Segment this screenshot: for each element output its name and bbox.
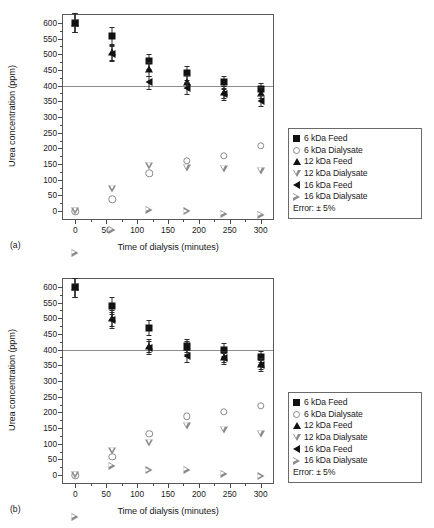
data-point-filled-triangle-left-icon	[72, 283, 79, 291]
y-axis-tick	[58, 475, 63, 476]
x-axis-tick	[199, 219, 200, 224]
data-point-filled-triangle-left-icon	[109, 50, 116, 58]
legend-item: 16 kDa Feed	[293, 179, 416, 191]
error-bar-cap	[221, 351, 226, 352]
error-bar-cap	[110, 297, 115, 298]
legend-item-label: 6 kDa Feed	[304, 397, 347, 408]
legend-item: 6 kDa Feed	[293, 397, 416, 409]
data-point-filled-triangle-left-icon	[220, 90, 227, 98]
y-axis-minor-tick	[60, 172, 63, 173]
y-axis-minor-tick	[60, 31, 63, 32]
error-bar-cap	[221, 76, 226, 77]
error-bar-cap	[110, 61, 115, 62]
y-axis-tick-label: 550	[43, 35, 57, 43]
legend-item-label: 12 kDa Feed	[304, 156, 352, 167]
legend-item: 12 kDa Dialysate	[293, 432, 416, 444]
error-bar-cap	[184, 66, 189, 67]
x-axis-tick	[261, 219, 262, 224]
error-bar-cap	[110, 310, 115, 311]
y-axis-minor-tick	[60, 78, 63, 79]
data-point-open-circle-icon	[257, 142, 264, 149]
y-axis-tick	[58, 350, 63, 351]
x-axis-tick-label: 250	[223, 226, 237, 234]
error-bar-cap	[110, 46, 115, 47]
y-axis-minor-tick	[60, 295, 63, 296]
error-bar-cap	[184, 94, 189, 95]
error-bar-cap	[221, 88, 226, 89]
y-axis-minor-tick	[60, 203, 63, 204]
legend-item-label: 6 kDa Dialysate	[304, 145, 363, 156]
data-point-filled-triangle-left-icon	[146, 344, 153, 352]
y-axis-tick	[58, 303, 63, 304]
open-circle-icon	[293, 411, 304, 418]
x-axis-tick	[75, 483, 76, 488]
x-axis-tick	[230, 483, 231, 488]
y-axis-minor-tick	[60, 93, 63, 94]
data-point-open-triangle-down-icon	[145, 163, 153, 170]
data-point-filled-square-icon	[109, 33, 116, 40]
x-axis-tick-label: 0	[73, 226, 78, 234]
legend-item-label: 16 kDa Dialysate	[304, 191, 367, 202]
data-point-open-triangle-right-icon	[257, 472, 264, 480]
x-axis-minor-tick	[245, 483, 246, 486]
y-axis-tick-label: 350	[43, 361, 57, 369]
error-bar-cap	[147, 76, 152, 77]
y-axis-tick-label: 600	[43, 283, 57, 291]
y-axis-tick-label: 100	[43, 440, 57, 448]
legend-item: 12 kDa Feed	[293, 156, 416, 168]
x-axis-minor-tick	[91, 483, 92, 486]
y-axis-minor-tick	[60, 141, 63, 142]
panel-label-a: (a)	[10, 240, 21, 250]
data-point-filled-triangle-left-icon	[220, 354, 227, 362]
y-axis-tick-label: 500	[43, 50, 57, 58]
error-bar-cap	[221, 343, 226, 344]
data-point-filled-triangle-left-icon	[257, 361, 264, 369]
legend-item: 12 kDa Feed	[293, 420, 416, 432]
x-axis-minor-tick	[122, 483, 123, 486]
data-point-open-triangle-down-icon	[108, 447, 116, 454]
x-axis-tick	[168, 483, 169, 488]
error-bar-cap	[221, 86, 226, 87]
x-axis-tick	[137, 483, 138, 488]
y-axis-tick	[58, 334, 63, 335]
x-axis-tick-label: 100	[130, 226, 144, 234]
y-axis-minor-tick	[60, 326, 63, 327]
y-axis-minor-tick	[60, 373, 63, 374]
error-bar-cap	[184, 362, 189, 363]
y-axis-tick-label: 200	[43, 144, 57, 152]
data-point-open-triangle-right-icon	[146, 466, 153, 474]
y-axis-tick	[58, 412, 63, 413]
data-point-open-circle-icon	[146, 430, 153, 437]
legend-item: 6 kDa Feed	[293, 133, 416, 145]
data-point-open-triangle-right-icon	[220, 210, 227, 218]
x-axis-minor-tick	[153, 483, 154, 486]
legend-item: 16 kDa Dialysate	[293, 191, 416, 203]
data-point-open-triangle-right-icon	[109, 226, 116, 234]
legend-item: 6 kDa Dialysate	[293, 145, 416, 157]
y-axis-tick	[58, 117, 63, 118]
legend-item: 16 kDa Dialysate	[293, 455, 416, 467]
panel-label-b: (b)	[10, 504, 21, 514]
legend-error-note: Error: ± 5%	[293, 203, 416, 215]
y-axis-tick-label: 550	[43, 299, 57, 307]
y-axis-minor-tick	[60, 46, 63, 47]
y-axis-tick	[58, 365, 63, 366]
x-axis-tick-label: 150	[161, 490, 175, 498]
y-axis-tick	[58, 287, 63, 288]
y-axis-tick-label: 150	[43, 424, 57, 432]
error-bar-cap	[73, 13, 78, 14]
y-axis-minor-tick	[60, 389, 63, 390]
x-axis-minor-tick	[183, 219, 184, 222]
y-axis-tick-label: 300	[43, 377, 57, 385]
error-bar-cap	[147, 339, 152, 340]
legend-item-label: 12 kDa Dialysate	[304, 168, 367, 179]
y-axis-tick-label: 250	[43, 129, 57, 137]
data-point-filled-square-icon	[109, 302, 116, 309]
data-point-open-triangle-down-icon	[257, 168, 265, 175]
y-axis-tick	[58, 397, 63, 398]
x-axis-minor-tick	[91, 219, 92, 222]
error-bar-cap	[147, 354, 152, 355]
data-point-filled-triangle-left-icon	[72, 19, 79, 27]
error-bar-cap	[110, 328, 115, 329]
data-point-open-triangle-down-icon	[183, 423, 191, 430]
